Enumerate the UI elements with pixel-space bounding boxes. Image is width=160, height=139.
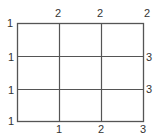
top-label-1: 2 [55, 8, 61, 19]
bottom-label-1: 1 [56, 124, 62, 135]
left-label-1: 1 [8, 52, 14, 63]
right-label-2: 3 [146, 84, 152, 95]
corner-label: 1 [7, 18, 13, 29]
left-label-2: 1 [8, 85, 14, 96]
top-label-3: 2 [144, 8, 150, 19]
grid-diagram [0, 0, 160, 139]
top-label-2: 2 [97, 8, 103, 19]
left-label-3: 1 [8, 116, 14, 127]
grid-border [18, 24, 144, 122]
bottom-label-3: 3 [140, 124, 146, 135]
bottom-label-2: 2 [98, 124, 104, 135]
right-label-1: 3 [146, 52, 152, 63]
